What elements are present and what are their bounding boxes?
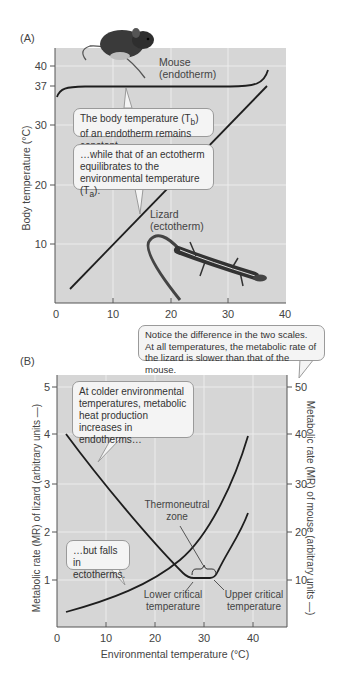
x-tick-b-30: 30 xyxy=(198,632,210,644)
y-axis-b-right-title: Metabolic rate (MR) of mouse (arbitrary … xyxy=(305,401,316,616)
x-tick-b-10: 10 xyxy=(100,632,112,644)
callout-endotherm-constant: The body temperature (Tb) of an endother… xyxy=(73,108,214,137)
mouse-label: Mouse xyxy=(159,56,191,68)
thermoneutral-label: Thermoneutral xyxy=(144,499,209,510)
y-tick-b-left-5: 5 xyxy=(44,381,50,393)
callout-2-text-rest: ). xyxy=(94,185,100,196)
callout-ectotherm-equilibrates: …while that of an ectotherm equilibrates… xyxy=(73,144,214,190)
y-tick-b-left-4: 4 xyxy=(44,428,50,440)
x-tick-a-30: 30 xyxy=(222,308,234,320)
callout-ecto-text: …but falls in ectotherms. xyxy=(73,545,125,580)
y-tick-a-37: 37 xyxy=(35,80,47,92)
y-tick-a-20: 20 xyxy=(35,179,47,191)
thermoneutral-label-sub: zone xyxy=(166,511,188,522)
lizard-label-sub: (ectotherm) xyxy=(150,220,204,232)
upper-critical-label: Upper critical xyxy=(225,589,283,600)
callout-1-text: The body temperature (T xyxy=(80,113,191,124)
mouse-label-sub: (endotherm) xyxy=(159,68,216,80)
upper-critical-label-sub: temperature xyxy=(227,601,281,612)
panel-b-label: (B) xyxy=(20,355,35,367)
x-tick-a-10: 10 xyxy=(107,308,119,320)
note-pointer xyxy=(299,359,314,378)
lizard-label: Lizard xyxy=(150,208,179,220)
x-tick-b-20: 20 xyxy=(149,632,161,644)
y-axis-b-left-title: Metabolic rate (MR) of lizard (arbitrary… xyxy=(31,404,42,612)
x-tick-b-40: 40 xyxy=(247,632,259,644)
y-tick-a-10: 10 xyxy=(35,238,47,250)
y-axis-a-title: Body temperature (°C) xyxy=(20,125,32,230)
y-tick-a-40: 40 xyxy=(35,60,47,72)
panel-a-label: (A) xyxy=(20,32,35,44)
y-tick-b-left-2: 2 xyxy=(44,526,50,538)
callout-ectotherm-falls: …but falls in ectotherms. xyxy=(66,540,130,570)
x-tick-b-0: 0 xyxy=(54,632,60,644)
x-tick-a-20: 20 xyxy=(165,308,177,320)
y-tick-b-left-3: 3 xyxy=(44,478,50,490)
x-tick-a-40: 40 xyxy=(279,308,291,320)
lower-critical-label: Lower critical xyxy=(144,589,202,600)
callout-endo-text: At colder environmental temperatures, me… xyxy=(79,386,186,445)
x-axis-b-title: Environmental temperature (°C) xyxy=(101,648,249,660)
y-tick-b-left-1: 1 xyxy=(44,574,50,586)
y-tick-a-30: 30 xyxy=(35,119,47,131)
y-tick-b-right-50: 50 xyxy=(295,381,307,393)
lower-critical-label-sub: temperature xyxy=(146,601,200,612)
x-tick-a-0: 0 xyxy=(53,308,59,320)
callout-endotherm-heat: At colder environmental temperatures, me… xyxy=(72,381,194,438)
callout-scale-note: Notice the difference in the two scales.… xyxy=(138,325,325,361)
